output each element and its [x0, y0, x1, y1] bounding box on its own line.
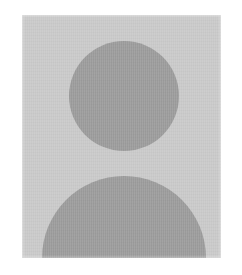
avatar-frame — [22, 15, 221, 258]
avatar-placeholder-image — [0, 0, 242, 275]
avatar-head-icon — [69, 41, 179, 151]
avatar-shoulders-icon — [42, 176, 206, 258]
